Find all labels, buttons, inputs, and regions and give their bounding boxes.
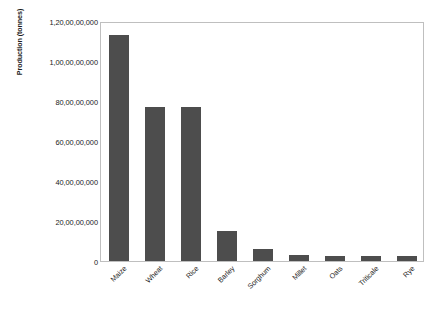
bar: [181, 107, 201, 261]
bar: [217, 231, 237, 261]
y-axis-tick-label: 60,00,00,000: [22, 138, 98, 147]
bar: [397, 256, 417, 261]
bar: [361, 256, 381, 261]
bar: [289, 255, 309, 261]
caption-text: [8, 309, 432, 316]
bar-chart-figure: Production (tonnes) 020,00,00,00040,00,0…: [0, 0, 440, 316]
bar: [145, 107, 165, 261]
x-axis-tick-labels: MaizeWheatRiceBarleySorghumMilletOatsTri…: [100, 262, 424, 316]
bar: [253, 249, 273, 261]
y-axis-tick-label: 20,00,00,000: [22, 218, 98, 227]
y-axis-tick-label: 80,00,00,000: [22, 98, 98, 107]
y-axis-tick-label: 1,00,00,00,000: [22, 58, 98, 67]
y-axis-tick-label: 1,20,00,00,000: [22, 18, 98, 27]
plot-area: [100, 22, 424, 262]
y-axis-tick-labels: 020,00,00,00040,00,00,00060,00,00,00080,…: [22, 0, 98, 316]
bar: [325, 256, 345, 261]
bar: [109, 35, 129, 261]
bars-layer: [101, 23, 423, 261]
y-axis-tick-label: 0: [22, 258, 98, 267]
y-axis-tick-label: 40,00,00,000: [22, 178, 98, 187]
